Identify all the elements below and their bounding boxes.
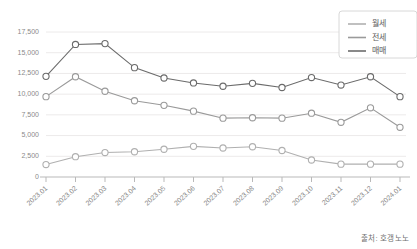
data-point-marker[interactable] — [220, 145, 226, 151]
data-point-marker[interactable] — [220, 83, 226, 89]
y-axis-tick-label: 7,500 — [21, 111, 39, 118]
data-point-marker[interactable] — [43, 161, 49, 167]
data-point-marker[interactable] — [249, 115, 255, 121]
data-point-marker[interactable] — [397, 161, 403, 167]
y-axis-tick-label: 10,000 — [18, 90, 40, 97]
legend-label-매매[interactable]: 매매 — [372, 46, 386, 55]
data-point-marker[interactable] — [279, 115, 285, 121]
x-axis-tick-label: 2023.06 — [173, 184, 197, 206]
data-point-marker[interactable] — [338, 82, 344, 88]
line-chart: 02,5005,0007,50010,00012,50015,00017,500… — [0, 0, 417, 249]
chart-canvas: 02,5005,0007,50010,00012,50015,00017,500… — [0, 0, 417, 249]
data-point-marker[interactable] — [249, 80, 255, 86]
data-point-marker[interactable] — [161, 75, 167, 81]
data-point-marker[interactable] — [131, 98, 137, 104]
x-axis-tick-label: 2023.03 — [84, 184, 108, 206]
data-point-marker[interactable] — [338, 161, 344, 167]
data-point-marker[interactable] — [308, 110, 314, 116]
data-point-marker[interactable] — [131, 149, 137, 155]
data-point-marker[interactable] — [308, 157, 314, 163]
data-point-marker[interactable] — [72, 154, 78, 160]
data-point-marker[interactable] — [220, 115, 226, 121]
x-axis-tick-label: 2023.07 — [202, 184, 226, 206]
data-point-marker[interactable] — [249, 144, 255, 150]
data-point-marker[interactable] — [338, 119, 344, 125]
x-axis-tick-label: 2023.12 — [350, 184, 374, 206]
x-axis-tick-label: 2023.09 — [261, 184, 285, 206]
data-point-marker[interactable] — [190, 143, 196, 149]
data-point-marker[interactable] — [161, 102, 167, 108]
legend-label-전세[interactable]: 전세 — [372, 32, 386, 42]
y-axis-tick-label: 5,000 — [21, 131, 39, 138]
x-axis-tick-label: 2023.08 — [232, 184, 256, 206]
legend-label-월세[interactable]: 월세 — [372, 18, 386, 28]
data-point-marker[interactable] — [131, 65, 137, 71]
data-point-marker[interactable] — [190, 108, 196, 114]
legend: 월세전세매매 — [339, 11, 417, 58]
series-전세 — [43, 74, 403, 131]
data-point-marker[interactable] — [102, 149, 108, 155]
y-axis-tick-label: 17,500 — [18, 28, 40, 35]
data-point-marker[interactable] — [72, 41, 78, 47]
x-axis-tick-label: 2023.05 — [143, 184, 167, 206]
y-axis-tick-label: 0 — [35, 173, 39, 180]
data-point-marker[interactable] — [367, 161, 373, 167]
series-월세 — [43, 143, 403, 167]
data-point-marker[interactable] — [102, 41, 108, 47]
data-point-marker[interactable] — [161, 146, 167, 152]
data-point-marker[interactable] — [102, 88, 108, 94]
x-axis: 2023.012023.022023.032023.042023.052023.… — [25, 177, 410, 207]
x-axis-tick-label: 2023.04 — [114, 184, 138, 206]
data-point-marker[interactable] — [308, 74, 314, 80]
data-point-marker[interactable] — [367, 105, 373, 111]
data-point-marker[interactable] — [72, 74, 78, 80]
data-point-marker[interactable] — [43, 94, 49, 100]
data-point-marker[interactable] — [43, 73, 49, 79]
data-point-marker[interactable] — [367, 74, 373, 80]
data-point-marker[interactable] — [279, 147, 285, 153]
x-axis-tick-label: 2024.01 — [379, 184, 403, 206]
data-point-marker[interactable] — [397, 94, 403, 100]
x-axis-tick-label: 2023.01 — [25, 184, 49, 206]
data-point-marker[interactable] — [397, 124, 403, 130]
data-point-marker[interactable] — [190, 80, 196, 86]
y-axis-tick-label: 12,500 — [18, 69, 40, 76]
source-note: 출처: 호갱노노 — [361, 232, 409, 243]
x-axis-tick-label: 2023.10 — [291, 184, 315, 206]
x-axis-tick-label: 2023.11 — [321, 184, 344, 206]
y-axis-tick-label: 15,000 — [18, 49, 40, 56]
x-axis-tick-label: 2023.02 — [55, 184, 79, 206]
data-point-marker[interactable] — [279, 84, 285, 90]
y-axis-tick-label: 2,500 — [21, 152, 39, 159]
